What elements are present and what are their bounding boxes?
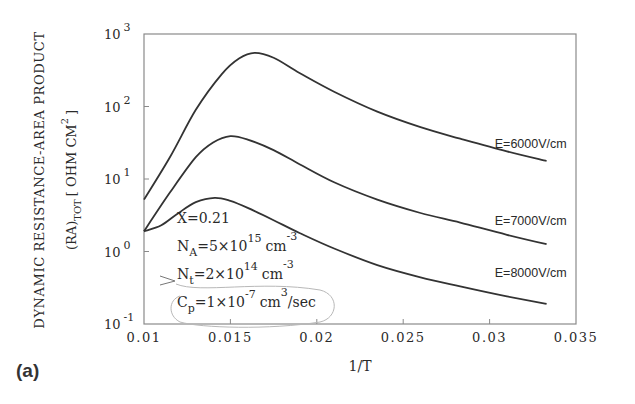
x-axis-ticks: 0.010.0150.020.0250.030.035 <box>127 319 599 345</box>
series-label: E=7000V/cm <box>495 214 567 228</box>
y-tick-label: 101 <box>104 166 131 187</box>
parameter-annotations: X=0.21NA=5×1015cm-3Nt=2×1014cm-3Cp=1×10-… <box>177 210 316 315</box>
annotation-line: Cp=1×10-7cm3/sec <box>177 286 316 315</box>
x-tick-label: 0.02 <box>299 330 334 345</box>
series-line-1 <box>144 53 547 200</box>
x-axis-label: 1/T <box>349 358 373 374</box>
y-axis-label-line1: DYNAMIC RESISTANCE-AREA PRODUCT <box>32 31 47 328</box>
series-label: E=8000V/cm <box>495 266 567 280</box>
handwritten-arrow <box>160 276 175 285</box>
y-axis-label-line2: (RA)TOT[ OHM CM2] <box>59 110 83 250</box>
x-tick-label: 0.015 <box>208 330 253 345</box>
chart: 0.010.0150.020.0250.030.035 103102101100… <box>0 0 635 404</box>
series-labels: E=6000V/cmE=7000V/cmE=8000V/cm <box>495 137 567 281</box>
annotation-line: Nt=2×1014cm-3 <box>177 258 294 287</box>
x-tick-label: 0.03 <box>472 330 507 345</box>
x-tick-label: 0.025 <box>381 330 426 345</box>
series-label: E=6000V/cm <box>495 137 567 151</box>
annotation-line: X=0.21 <box>177 210 230 226</box>
y-tick-label: 103 <box>104 21 131 42</box>
y-axis-label: DYNAMIC RESISTANCE-AREA PRODUCT (RA)TOT[… <box>32 31 83 328</box>
y-tick-label: 10-1 <box>104 311 134 332</box>
y-tick-label: 102 <box>104 94 131 115</box>
x-tick-label: 0.01 <box>127 330 162 345</box>
y-tick-label: 100 <box>104 239 131 260</box>
panel-label: (a) <box>16 360 39 382</box>
y-axis-ticks: 10310210110010-1 <box>104 21 149 332</box>
x-tick-label: 0.035 <box>554 330 599 345</box>
series-line-2 <box>144 136 547 244</box>
annotation-line: NA=5×1015cm-3 <box>177 230 297 259</box>
